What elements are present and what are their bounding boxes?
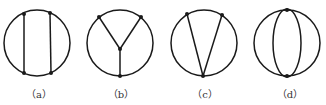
vertex-dot <box>118 74 122 78</box>
vertex-dot <box>118 47 122 51</box>
panel-label-b: （b） <box>108 89 134 100</box>
vertex-dot <box>139 15 143 19</box>
panel-d: （d） <box>254 8 320 100</box>
vertex-dot <box>201 74 205 78</box>
panel-c: （c） <box>171 10 237 100</box>
outer-circle <box>4 10 70 76</box>
vertex-dot <box>285 74 289 78</box>
panel-label-a: （a） <box>26 89 52 100</box>
feynman-diagrams-figure: （a） （b） （c） （d） <box>0 0 326 105</box>
panel-a: （a） <box>4 10 70 100</box>
outer-circle <box>254 10 320 76</box>
edge-left <box>99 17 120 49</box>
vertex-dot <box>22 12 26 16</box>
panel-label-c: （c） <box>192 89 218 100</box>
panel-label-d: （d） <box>277 89 303 100</box>
vertex-dot <box>97 15 101 19</box>
chord-left <box>187 14 203 76</box>
inner-lens <box>273 9 301 77</box>
vertex-dot <box>285 8 289 12</box>
edge-right <box>120 17 141 49</box>
vertex-dot <box>49 71 53 75</box>
chord-right <box>50 13 51 73</box>
chord-right <box>203 15 222 76</box>
panel-b: （b） <box>87 10 153 100</box>
vertex-dot <box>220 13 224 17</box>
vertex-dot <box>48 11 52 15</box>
vertex-dot <box>22 71 26 75</box>
outer-circle <box>171 10 237 76</box>
vertex-dot <box>185 12 189 16</box>
